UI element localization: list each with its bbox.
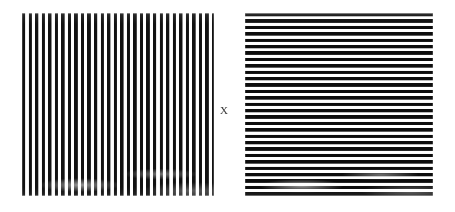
- figure-canvas: X: [0, 0, 455, 212]
- vertical-grating-panel: [22, 13, 214, 196]
- horizontal-grating-panel: [245, 13, 433, 197]
- multiplication-symbol: X: [216, 105, 232, 116]
- vertical-stripes: [22, 13, 214, 196]
- horizontal-stripes: [245, 13, 433, 197]
